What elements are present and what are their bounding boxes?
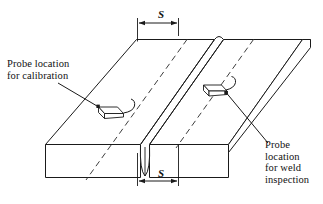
weld-bead-crown-arc (215, 37, 224, 40)
label-weld-line3: for weld (265, 162, 309, 174)
label-probe-location-calibration: Probe location for calibration (7, 58, 69, 81)
label-weld-line4: inspection (265, 174, 309, 186)
label-calibration-line2: for calibration (7, 70, 69, 82)
label-weld-line1: Probe (265, 139, 309, 151)
probe-calibration-leader-dot (96, 105, 99, 108)
dimension-top (138, 18, 179, 42)
plate-front-face-left (46, 145, 141, 178)
label-calibration-line1: Probe location (7, 58, 69, 70)
weld-inspection-diagram: Probe location for calibration Probe loc… (0, 0, 323, 204)
dimension-top-symbol: S (158, 8, 164, 20)
label-weld-line2: location (265, 151, 309, 163)
label-probe-location-weld-inspection: Probe location for weld inspection (265, 139, 309, 185)
dimension-bottom-symbol: S (158, 167, 164, 179)
